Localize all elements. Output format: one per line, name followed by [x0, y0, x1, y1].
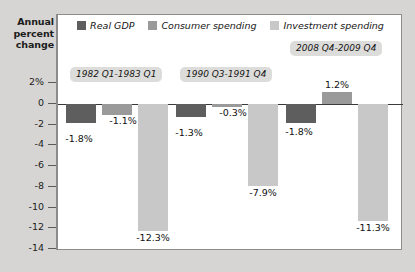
y-axis-tick-label: -4 [4, 139, 44, 149]
y-axis-tick-label: -12 [4, 222, 44, 232]
y-axis-tick [48, 82, 56, 83]
y-axis-caption-line-1: Annual [6, 16, 54, 28]
legend-swatch-icon [270, 21, 279, 30]
bar-value-label: 1.2% [313, 79, 361, 90]
plot-inner: Real GDPConsumer spendingInvestment spen… [58, 15, 401, 249]
y-axis-tick-label: -14 [4, 243, 44, 253]
y-axis-caption-line-3: change [6, 39, 54, 51]
y-axis-tick-label: -8 [4, 181, 44, 191]
legend-swatch-icon [77, 21, 86, 30]
y-axis-tick-label: -2 [4, 119, 44, 129]
y-axis-tick-label: -10 [4, 202, 44, 212]
y-axis-spine [56, 14, 57, 250]
y-axis-tick [48, 103, 56, 104]
bar [176, 104, 206, 117]
y-axis-tick [48, 207, 56, 208]
legend-item-label: Real GDP [90, 20, 134, 31]
plot-area: Real GDPConsumer spendingInvestment spen… [57, 14, 402, 250]
y-axis-caption-line-2: percent [6, 28, 54, 40]
legend-item: Consumer spending [148, 20, 256, 31]
group-label-pill: 1990 Q3-1991 Q4 [180, 67, 272, 82]
y-axis-tick-label: -6 [4, 160, 44, 170]
y-axis-tick [48, 248, 56, 249]
bar [102, 104, 132, 115]
bar [138, 104, 168, 231]
bar [66, 104, 96, 123]
bar-value-label: -7.9% [239, 187, 287, 198]
legend-item-label: Investment spending [283, 20, 383, 31]
group-label-pill: 1982 Q1-1983 Q1 [70, 67, 162, 82]
bar [358, 104, 388, 221]
figure-root: Annual percent change Real GDPConsumer s… [0, 0, 415, 272]
y-axis-tick [48, 124, 56, 125]
y-axis-tick [48, 186, 56, 187]
y-axis-tick [48, 227, 56, 228]
legend-item-label: Consumer spending [161, 20, 256, 31]
y-axis-tick-label: 0 [4, 98, 44, 108]
y-axis-tick-label: 2% [4, 77, 44, 87]
y-axis-caption: Annual percent change [6, 16, 54, 51]
chart-legend: Real GDPConsumer spendingInvestment spen… [58, 20, 403, 31]
bar-value-label: -1.8% [275, 126, 323, 137]
legend-item: Real GDP [77, 20, 134, 31]
legend-item: Investment spending [270, 20, 383, 31]
y-axis-tick [48, 165, 56, 166]
bar-value-label: -1.3% [165, 127, 213, 138]
legend-swatch-icon [148, 21, 157, 30]
bar-value-label: -1.8% [55, 133, 103, 144]
y-axis-tick [48, 144, 56, 145]
bar [286, 104, 316, 123]
bar [322, 92, 352, 104]
bar-value-label: -11.3% [349, 222, 397, 233]
bar [248, 104, 278, 186]
group-label-pill: 2008 Q4-2009 Q4 [290, 41, 382, 56]
bar-value-label: -12.3% [129, 232, 177, 243]
